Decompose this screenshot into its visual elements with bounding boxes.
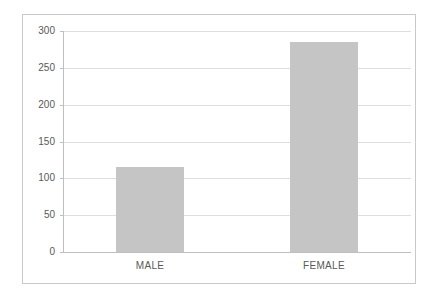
y-tick-label: 250: [23, 62, 55, 74]
chart-frame: 050100150200250300MALEFEMALE: [22, 14, 416, 284]
x-category-label: FEMALE: [264, 260, 384, 272]
y-axis-tick: [60, 215, 63, 216]
y-axis-line: [63, 31, 64, 252]
y-axis-tick: [60, 178, 63, 179]
y-tick-label: 100: [23, 172, 55, 184]
gridline: [63, 142, 411, 143]
x-category-label: MALE: [90, 260, 210, 272]
x-axis-line: [63, 252, 411, 253]
y-axis-tick: [60, 142, 63, 143]
bar-chart-image: 050100150200250300MALEFEMALE: [0, 0, 436, 302]
gridline: [63, 31, 411, 32]
y-axis-tick: [60, 68, 63, 69]
bar-male: [116, 167, 184, 252]
y-tick-label: 150: [23, 136, 55, 148]
y-tick-label: 0: [23, 246, 55, 258]
y-axis-tick: [60, 105, 63, 106]
bar-female: [290, 42, 358, 252]
gridline: [63, 68, 411, 69]
y-axis-tick: [60, 252, 63, 253]
gridline: [63, 105, 411, 106]
y-tick-label: 50: [23, 209, 55, 221]
y-tick-label: 300: [23, 25, 55, 37]
y-axis-tick: [60, 31, 63, 32]
y-tick-label: 200: [23, 99, 55, 111]
